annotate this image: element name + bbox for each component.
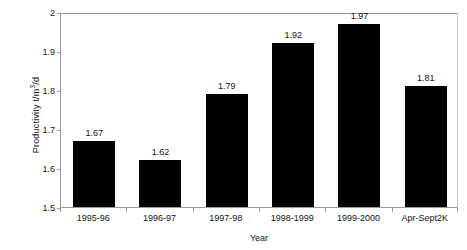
x-axis-tick-label: 1997-98 [209,214,242,223]
y-axis-tick-label: 1.9 [42,48,55,57]
x-axis-tick-mark [325,208,326,212]
x-axis-tick-marks [60,208,458,213]
y-axis-tick-label: 2 [50,9,55,18]
bar-value-label: 1.67 [85,129,103,138]
bar-value-label: 1.97 [351,12,369,21]
bar-slot: 1.81 [393,14,459,207]
y-axis-tick-label: 1.5 [42,204,55,213]
y-axis-tick-labels: 1.51.61.71.81.92 [30,13,58,208]
bars-layer: 1.671.621.791.921.971.81 [61,14,457,207]
bar-value-label: 1.92 [284,31,302,40]
bar-slot: 1.97 [326,14,392,207]
x-axis-tick-label: 1998-1999 [271,214,314,223]
x-axis-title: Year [60,233,458,243]
x-axis-tick-mark [60,208,61,212]
bar-slot: 1.67 [61,14,127,207]
bar-value-label: 1.79 [218,82,236,91]
x-axis-tick-label: Apr-Sept2K [402,214,449,223]
y-axis-tick-label: 1.8 [42,87,55,96]
x-axis-tick-label: 1995-96 [77,214,110,223]
x-axis-tick-mark [193,208,194,212]
bar[interactable] [272,43,314,207]
x-axis-tick-mark [126,208,127,212]
bar[interactable] [206,94,248,207]
bar[interactable] [139,160,181,207]
plot-area: 1.671.621.791.921.971.81 [60,13,458,208]
bar-slot: 1.62 [127,14,193,207]
bar-slot: 1.92 [260,14,326,207]
bar[interactable] [405,86,447,207]
y-axis-tick-label: 1.7 [42,126,55,135]
bar[interactable] [73,141,115,207]
x-axis-tick-mark [392,208,393,212]
bar[interactable] [338,24,380,207]
bar-slot: 1.79 [194,14,260,207]
x-axis-tick-label: 1999-2000 [337,214,380,223]
y-axis-tick-label: 1.6 [42,165,55,174]
x-axis-tick-label: 1996-97 [143,214,176,223]
bar-value-label: 1.81 [417,74,435,83]
x-axis-tick-mark [259,208,260,212]
x-axis-tick-labels: 1995-961996-971997-981998-19991999-2000A… [60,214,458,230]
bar-value-label: 1.62 [152,148,170,157]
x-axis-tick-mark [457,208,458,212]
bar-chart: Productivity t/m3/d 1.51.61.71.81.92 1.6… [0,0,467,250]
